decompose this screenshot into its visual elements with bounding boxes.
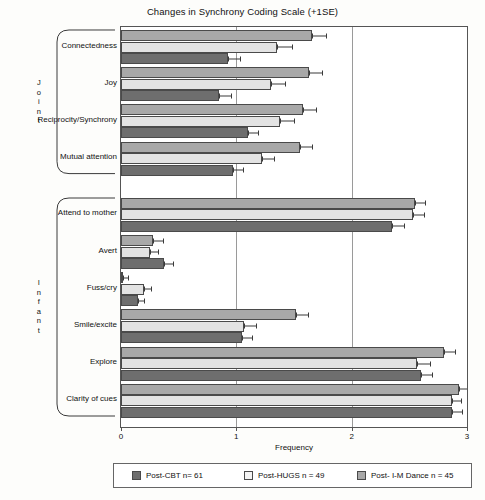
error-bar-cap	[240, 56, 241, 61]
error-bar-cap	[248, 130, 249, 135]
error-bar	[280, 121, 294, 122]
bar-row	[121, 384, 467, 395]
error-bar-cap	[415, 201, 416, 206]
bar-group	[121, 272, 467, 306]
x-axis-tick	[236, 427, 237, 431]
bar	[121, 332, 242, 343]
error-bar	[413, 214, 425, 215]
bar-group	[121, 384, 467, 418]
bar-row	[121, 247, 467, 258]
error-bar-cap	[404, 224, 405, 229]
error-bar-cap	[309, 70, 310, 75]
chart-page: Changes in Synchrony Coding Scale (+1SE)…	[0, 0, 485, 500]
error-bar	[417, 363, 430, 364]
x-axis-tick-label: 2	[342, 432, 362, 441]
bar	[121, 321, 244, 332]
x-axis-tick-label: 0	[111, 432, 131, 441]
error-bar-cap	[274, 156, 275, 161]
error-bar	[244, 326, 256, 327]
error-bar-cap	[432, 373, 433, 378]
legend-item[interactable]: Post-CBT n= 61	[132, 471, 203, 480]
bar-row	[121, 30, 467, 41]
error-bar-cap	[242, 335, 243, 340]
bar-row	[121, 221, 467, 232]
error-bar	[309, 72, 322, 73]
error-bar-cap	[326, 33, 327, 38]
error-bar-cap	[151, 287, 152, 292]
bar	[121, 247, 150, 258]
chart-legend: Post-CBT n= 61Post-HUGS n = 49Post- I-M …	[113, 463, 472, 488]
bar-row	[121, 104, 467, 115]
error-bar	[312, 35, 326, 36]
bar	[121, 90, 219, 101]
bar-group	[121, 67, 467, 101]
error-bar-cap	[421, 373, 422, 378]
error-bar	[271, 84, 285, 85]
error-bar	[219, 95, 231, 96]
error-bar-cap	[256, 324, 257, 329]
bar-row	[121, 42, 467, 53]
bar	[121, 384, 459, 395]
legend-item[interactable]: Post-HUGS n = 49	[244, 471, 324, 480]
bar-group	[121, 142, 467, 176]
error-bar	[452, 400, 461, 401]
bar-row	[121, 295, 467, 306]
error-bar-cap	[164, 261, 165, 266]
error-bar	[248, 132, 258, 133]
error-bar-cap	[158, 250, 159, 255]
error-bar-cap	[144, 287, 145, 292]
error-bar-cap	[280, 119, 281, 124]
error-bar-cap	[138, 298, 139, 303]
bar-group	[121, 198, 467, 232]
bar	[121, 347, 444, 358]
bar-row	[121, 67, 467, 78]
legend-swatch-icon	[357, 471, 366, 480]
legend-label: Post-CBT n= 61	[146, 471, 203, 480]
error-bar-cap	[153, 238, 154, 243]
error-bar-cap	[455, 350, 456, 355]
error-bar-cap	[292, 45, 293, 50]
bar-row	[121, 358, 467, 369]
bar-row	[121, 332, 467, 343]
bar	[121, 258, 164, 269]
bar-row	[121, 153, 467, 164]
error-bar-cap	[252, 335, 253, 340]
bar-row	[121, 258, 467, 269]
bar	[121, 235, 153, 246]
legend-label: Post-HUGS n = 49	[258, 471, 324, 480]
bar	[121, 142, 300, 153]
error-bar-cap	[219, 93, 220, 98]
error-bar	[296, 314, 308, 315]
bar-row	[121, 127, 467, 138]
x-axis-tick	[467, 427, 468, 431]
bar	[121, 53, 228, 64]
legend-item[interactable]: Post- I-M Dance n = 45	[357, 471, 453, 480]
bar-row	[121, 209, 467, 220]
bar-row	[121, 235, 467, 246]
error-bar-cap	[425, 201, 426, 206]
bar	[121, 153, 262, 164]
x-axis-tick-label: 3	[457, 432, 477, 441]
bar-group	[121, 347, 467, 381]
bar	[121, 127, 248, 138]
error-bar-cap	[452, 398, 453, 403]
error-bar	[421, 375, 433, 376]
bar-row	[121, 370, 467, 381]
error-bar	[277, 47, 292, 48]
error-bar-cap	[430, 361, 431, 366]
bar-row	[121, 395, 467, 406]
chart-title: Changes in Synchrony Coding Scale (+1SE)	[0, 6, 485, 17]
error-bar-cap	[452, 410, 453, 415]
error-bar	[153, 240, 162, 241]
error-bar-cap	[316, 107, 317, 112]
error-bar-cap	[233, 168, 234, 173]
error-bar-cap	[308, 312, 309, 317]
bar	[121, 370, 421, 381]
bar	[121, 221, 392, 232]
error-bar	[300, 147, 313, 148]
bar-row	[121, 53, 467, 64]
error-bar-cap	[244, 324, 245, 329]
error-bar-cap	[228, 56, 229, 61]
bar	[121, 104, 303, 115]
bar	[121, 309, 296, 320]
